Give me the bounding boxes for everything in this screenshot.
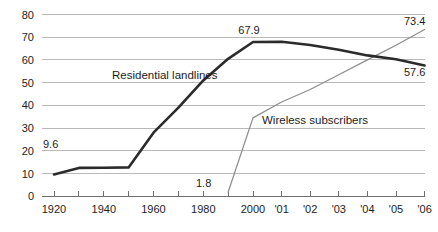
x-axis-ticks — [54, 191, 425, 196]
x-tick-label-03: '03 — [332, 203, 346, 215]
x-axis-labels: 1920 1940 1960 1980 2000 '01 '02 '03 '04… — [42, 203, 432, 215]
x-tick-label-04: '04 — [360, 203, 374, 215]
value-label-1-8: 1.8 — [196, 177, 211, 189]
line-chart-telephone-adoption: 80 70 60 50 40 30 20 10 0 1920 1940 1960… — [0, 0, 438, 232]
chart-canvas: 80 70 60 50 40 30 20 10 0 1920 1940 1960… — [0, 0, 438, 232]
x-tick-label-1960: 1960 — [141, 203, 165, 215]
y-tick-label-80: 80 — [22, 9, 34, 21]
y-tick-label-0: 0 — [28, 190, 34, 202]
y-tick-label-10: 10 — [22, 168, 34, 180]
x-tick-label-1940: 1940 — [92, 203, 116, 215]
y-tick-label-70: 70 — [22, 31, 34, 43]
series-label-residential-landlines: Residential landlines — [112, 69, 218, 81]
value-label-73-4: 73.4 — [404, 15, 425, 27]
series-line-residential-landlines — [54, 42, 425, 175]
series-label-wireless-subscribers: Wireless subscribers — [262, 114, 368, 126]
x-tick-label-2000: 2000 — [241, 203, 265, 215]
y-tick-label-40: 40 — [22, 99, 34, 111]
y-axis-labels: 80 70 60 50 40 30 20 10 0 — [22, 9, 34, 203]
series-line-wireless-subscribers — [228, 30, 425, 193]
x-tick-label-01: '01 — [274, 203, 288, 215]
value-label-67-9: 67.9 — [238, 24, 259, 36]
x-tick-label-06: '06 — [417, 203, 431, 215]
value-label-57-6: 57.6 — [404, 66, 425, 78]
y-tick-label-30: 30 — [22, 122, 34, 134]
y-tick-label-20: 20 — [22, 145, 34, 157]
x-tick-label-05: '05 — [389, 203, 403, 215]
x-tick-label-02: '02 — [303, 203, 317, 215]
y-tick-label-60: 60 — [22, 54, 34, 66]
x-tick-label-1920: 1920 — [42, 203, 66, 215]
y-tick-label-50: 50 — [22, 77, 34, 89]
value-label-9-6: 9.6 — [43, 138, 58, 150]
x-tick-label-1980: 1980 — [191, 203, 215, 215]
gridlines — [42, 15, 425, 174]
